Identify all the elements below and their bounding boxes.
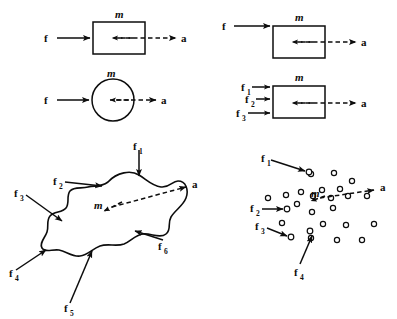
force-subscript-f2: 2 <box>59 182 63 191</box>
force-label-f2: f <box>250 202 254 214</box>
panel-particle-cloud-four-forces: f 1 f 2 f 3 f 4 m a <box>250 152 386 282</box>
figure-canvas: m f a m f a m f a m f 1 f 2 f 3 <box>0 0 397 319</box>
particle <box>334 237 339 242</box>
particle <box>319 187 324 192</box>
particle-force-target-f3 <box>288 234 294 240</box>
particle <box>320 221 325 226</box>
particle-cloud <box>265 169 376 242</box>
force-label-f6: f <box>158 240 162 252</box>
acceleration-label-a: a <box>192 178 198 190</box>
particle <box>364 193 369 198</box>
acceleration-label-a: a <box>380 181 386 193</box>
force-label-f1: f <box>261 152 265 164</box>
mass-label: m <box>295 11 304 23</box>
force-arrow-f2 <box>65 182 102 186</box>
force-arrow-f3 <box>267 228 287 236</box>
force-subscript-f2: 2 <box>251 100 255 109</box>
force-subscript-f3: 3 <box>242 114 246 123</box>
acceleration-arrow-a <box>112 187 186 207</box>
force-arrow-f4 <box>16 250 46 270</box>
particle <box>331 170 336 175</box>
block-outline <box>273 86 325 118</box>
physics-force-diagram-figure: m f a m f a m f a m f 1 f 2 f 3 <box>0 0 397 319</box>
particle <box>298 189 303 194</box>
force-subscript-f3: 3 <box>20 194 24 203</box>
force-subscript-f2: 2 <box>256 209 260 218</box>
panel-block-three-forces: m f 1 f 2 f 3 a <box>236 71 367 123</box>
particle-force-target-f1 <box>306 169 312 175</box>
force-label-f: f <box>44 32 48 44</box>
force-arrow-f5 <box>70 251 92 303</box>
mass-label: m <box>107 67 116 79</box>
force-arrow-f1 <box>271 160 305 171</box>
particle <box>294 201 299 206</box>
force-label-f4: f <box>294 266 298 278</box>
particle <box>349 178 354 183</box>
force-label-f1: f <box>133 140 137 152</box>
particle <box>343 222 348 227</box>
force-label-f: f <box>222 20 226 32</box>
particle <box>359 237 364 242</box>
acceleration-label-a: a <box>361 97 367 109</box>
force-arrow-f3 <box>26 195 62 221</box>
acceleration-label-a: a <box>161 94 167 106</box>
mass-label: m <box>94 199 103 211</box>
acceleration-label-a: a <box>181 32 187 44</box>
acceleration-label-a: a <box>361 36 367 48</box>
panel-block-offset-force: m f a <box>222 11 367 58</box>
particle <box>337 186 342 191</box>
force-arrow-f4 <box>300 236 312 264</box>
particle <box>371 221 376 226</box>
particle <box>330 205 335 210</box>
force-label-f2: f <box>245 93 249 105</box>
force-label-f3: f <box>14 187 18 199</box>
force-label-f4: f <box>9 267 13 279</box>
force-subscript-f1: 1 <box>267 159 271 168</box>
force-label-f: f <box>44 94 48 106</box>
force-subscript-f5: 5 <box>70 309 74 318</box>
force-subscript-f1: 1 <box>139 147 143 156</box>
mass-label: m <box>115 8 124 20</box>
force-subscript-f6: 6 <box>164 247 168 256</box>
particle <box>279 220 284 225</box>
particle-force-target-f2 <box>284 206 290 212</box>
particle-force-target-f4 <box>307 228 313 234</box>
force-label-f3: f <box>236 107 240 119</box>
force-label-f3: f <box>255 220 259 232</box>
panel-block-single-force: m f a <box>44 8 187 54</box>
mass-label: m <box>311 187 320 199</box>
force-subscript-f3: 3 <box>261 227 265 236</box>
force-label-f5: f <box>64 302 68 314</box>
force-subscript-f4: 4 <box>300 273 304 282</box>
particle <box>309 209 314 214</box>
irregular-body-outline <box>41 172 187 256</box>
force-label-f2: f <box>53 175 57 187</box>
force-label-f1: f <box>241 81 245 93</box>
particle <box>265 195 270 200</box>
panel-irregular-body-six-forces: m f 1 f 2 f 3 f 4 f 5 f 6 a <box>9 140 198 318</box>
mass-label: m <box>295 71 304 83</box>
panel-circle-single-force: m f a <box>44 67 167 121</box>
particle <box>283 192 288 197</box>
force-subscript-f4: 4 <box>15 274 19 283</box>
